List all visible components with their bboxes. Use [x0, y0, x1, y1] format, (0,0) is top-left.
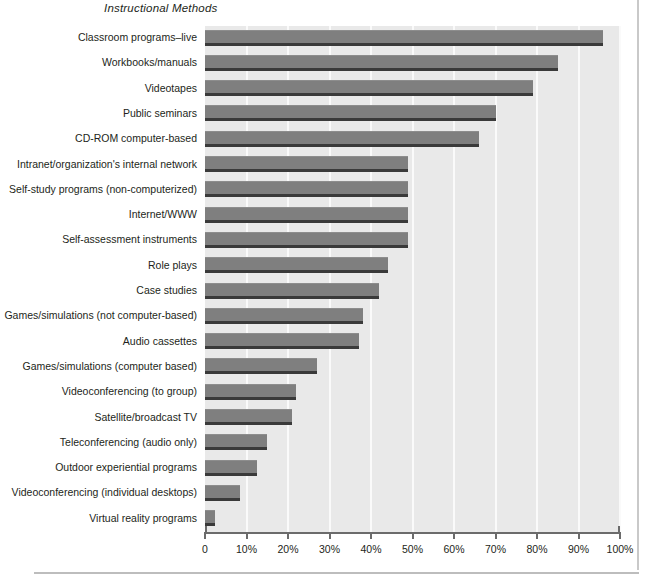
x-axis-tick: [287, 532, 289, 539]
bar[interactable]: [205, 358, 317, 374]
x-axis-tick-label: 60%: [443, 543, 464, 555]
bar-row[interactable]: Case studies: [0, 279, 637, 306]
x-axis-tick: [329, 532, 331, 539]
x-axis-tick-label: 100%: [607, 543, 634, 555]
bar[interactable]: [205, 460, 257, 476]
bar-fill: [205, 358, 317, 371]
bar-row[interactable]: Self-study programs (non-computerized): [0, 178, 637, 205]
bar-row[interactable]: Self-assessment instruments: [0, 228, 637, 255]
bar-category-label: Games/simulations (computer based): [0, 360, 197, 372]
x-axis-tick-label: 20%: [277, 543, 298, 555]
page-rule-right: [637, 0, 639, 570]
bar-row[interactable]: CD-ROM computer-based: [0, 127, 637, 154]
bar-fill: [205, 181, 408, 194]
bar-row[interactable]: Intranet/organization's internal network: [0, 153, 637, 180]
bar-fill: [205, 30, 603, 43]
bar-shadow: [205, 144, 479, 147]
x-axis: 010%20%30%40%50%60%70%80%90%100%: [205, 532, 620, 534]
bar-fill: [205, 434, 267, 447]
bar[interactable]: [205, 207, 408, 223]
bar-category-label: Videoconferencing (to group): [0, 385, 197, 397]
x-axis-tick: [370, 532, 372, 539]
bar-fill: [205, 409, 292, 422]
bar[interactable]: [205, 257, 388, 273]
x-axis-tick-label: 50%: [402, 543, 423, 555]
bar-row[interactable]: Videotapes: [0, 77, 637, 104]
bar-shadow: [205, 397, 296, 400]
bar-category-label: Classroom programs–live: [0, 31, 197, 43]
bar[interactable]: [205, 409, 292, 425]
bar[interactable]: [205, 510, 215, 526]
page: Instructional Methods Classroom programs…: [0, 0, 653, 584]
bar-row[interactable]: Videoconferencing (individual desktops): [0, 481, 637, 508]
bar-category-label: Audio cassettes: [0, 335, 197, 347]
x-axis-tick: [453, 532, 455, 539]
x-axis-tick: [204, 532, 206, 539]
bar-row[interactable]: Games/simulations (computer based): [0, 355, 637, 382]
x-axis-tick: [619, 532, 621, 539]
bar-chart: Instructional Methods Classroom programs…: [0, 0, 637, 570]
bar[interactable]: [205, 485, 240, 501]
bar-row[interactable]: Classroom programs–live: [0, 26, 637, 53]
bar-fill: [205, 510, 215, 523]
bar-row[interactable]: Audio cassettes: [0, 330, 637, 357]
bar-fill: [205, 333, 359, 346]
bar-category-label: Role plays: [0, 259, 197, 271]
bar[interactable]: [205, 384, 296, 400]
bar[interactable]: [205, 156, 408, 172]
bar-fill: [205, 460, 257, 473]
bar[interactable]: [205, 181, 408, 197]
bar-shadow: [205, 346, 359, 349]
x-axis-tick: [412, 532, 414, 539]
page-rule-bottom: [34, 572, 639, 574]
bar-shadow: [205, 245, 408, 248]
x-axis-tick: [536, 532, 538, 539]
bar[interactable]: [205, 232, 408, 248]
bar-shadow: [205, 270, 388, 273]
bar-fill: [205, 257, 388, 270]
bar-fill: [205, 384, 296, 397]
bar-category-label: Self-assessment instruments: [0, 233, 197, 245]
bar[interactable]: [205, 105, 496, 121]
bar-row[interactable]: Outdoor experiential programs: [0, 456, 637, 483]
bar-row[interactable]: Games/simulations (not computer-based): [0, 304, 637, 331]
bar[interactable]: [205, 283, 379, 299]
bar-fill: [205, 485, 240, 498]
bar[interactable]: [205, 55, 558, 71]
bar-fill: [205, 207, 408, 220]
bar-row[interactable]: Public seminars: [0, 102, 637, 129]
bar[interactable]: [205, 308, 363, 324]
bar-fill: [205, 80, 533, 93]
bar-fill: [205, 156, 408, 169]
bar-rows: Classroom programs–liveWorkbooks/manuals…: [0, 26, 637, 532]
bar-shadow: [205, 43, 603, 46]
bar-category-label: Self-study programs (non-computerized): [0, 183, 197, 195]
bar-fill: [205, 283, 379, 296]
bar-category-label: Satellite/broadcast TV: [0, 411, 197, 423]
bar[interactable]: [205, 434, 267, 450]
bar-row[interactable]: Videoconferencing (to group): [0, 380, 637, 407]
bar-row[interactable]: Internet/WWW: [0, 203, 637, 230]
bar-row[interactable]: Workbooks/manuals: [0, 51, 637, 78]
bar-row[interactable]: Satellite/broadcast TV: [0, 406, 637, 433]
bar-shadow: [205, 220, 408, 223]
bar-category-label: Teleconferencing (audio only): [0, 436, 197, 448]
x-axis-tick: [246, 532, 248, 539]
bar[interactable]: [205, 333, 359, 349]
bar-shadow: [205, 498, 240, 501]
bar-shadow: [205, 194, 408, 197]
bar-category-label: Virtual reality programs: [0, 512, 197, 524]
bar[interactable]: [205, 80, 533, 96]
bar[interactable]: [205, 131, 479, 147]
bar[interactable]: [205, 30, 603, 46]
x-axis-tick-label: 80%: [526, 543, 547, 555]
bar-fill: [205, 232, 408, 245]
bar-category-label: Videoconferencing (individual desktops): [0, 486, 197, 498]
bar-shadow: [205, 473, 257, 476]
bar-row[interactable]: Role plays: [0, 254, 637, 281]
bar-row[interactable]: Teleconferencing (audio only): [0, 431, 637, 458]
bar-shadow: [205, 371, 317, 374]
bar-row[interactable]: Virtual reality programs: [0, 507, 637, 534]
bar-fill: [205, 131, 479, 144]
bar-shadow: [205, 68, 558, 71]
